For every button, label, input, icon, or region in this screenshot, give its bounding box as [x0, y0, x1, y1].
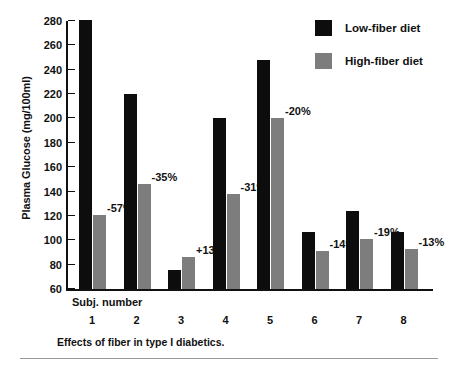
- bar-high-fiber: [271, 118, 284, 289]
- bar-low-fiber: [79, 20, 92, 289]
- y-axis-tick-label: 100: [22, 235, 62, 246]
- bar-low-fiber: [257, 60, 270, 289]
- y-axis-tick: [68, 288, 75, 289]
- bar-high-fiber: [405, 249, 418, 289]
- y-axis-tick-label: 220: [22, 89, 62, 100]
- y-axis-tick: [68, 44, 75, 45]
- bar-percent-label: -35%: [152, 172, 178, 183]
- x-axis-tick-label: 5: [255, 314, 285, 326]
- bar-low-fiber: [302, 232, 315, 289]
- y-axis-tick: [68, 69, 75, 70]
- y-axis-tick: [68, 264, 75, 265]
- horizontal-rule: [20, 358, 438, 359]
- x-axis-tick-label: 8: [389, 314, 419, 326]
- legend-swatch-icon-low-fiber: [315, 20, 332, 36]
- figure-caption: Effects of fiber in type I diabetics.: [57, 336, 224, 348]
- x-axis-line: [66, 289, 433, 291]
- y-axis-tick: [68, 20, 75, 21]
- bar-low-fiber: [168, 270, 181, 289]
- legend-label-low-fiber: Low-fiber diet: [345, 22, 420, 34]
- bar-high-fiber: [360, 239, 373, 289]
- x-axis-tick-label: 2: [122, 314, 152, 326]
- legend-item-high-fiber: High-fiber diet: [315, 53, 423, 69]
- y-axis-tick-label: 120: [22, 211, 62, 222]
- legend-item-low-fiber: Low-fiber diet: [315, 20, 423, 36]
- bar-high-fiber: [93, 215, 106, 289]
- x-axis-tick-label: 6: [300, 314, 330, 326]
- x-axis-tick-label: 4: [211, 314, 241, 326]
- figure: Plasma Glucose (mg/100ml) -57%-35%+13%-3…: [0, 0, 457, 370]
- y-axis-tick-label: 160: [22, 162, 62, 173]
- x-axis-title: Subj. number: [72, 296, 142, 308]
- bar-high-fiber: [227, 194, 240, 289]
- y-axis-tick: [68, 93, 75, 94]
- bar-low-fiber: [124, 94, 137, 289]
- y-axis-tick: [68, 117, 75, 118]
- y-axis-tick-label: 60: [22, 284, 62, 295]
- y-axis-tick-label: 260: [22, 40, 62, 51]
- x-axis-tick-label: 3: [166, 314, 196, 326]
- y-axis-tick: [68, 215, 75, 216]
- legend: Low-fiber diet High-fiber diet: [315, 20, 423, 86]
- x-axis-tick-label: 7: [344, 314, 374, 326]
- y-axis-tick: [68, 142, 75, 143]
- bar-low-fiber: [346, 211, 359, 289]
- x-axis-tick-label: 1: [77, 314, 107, 326]
- y-axis-tick-label: 200: [22, 113, 62, 124]
- bar-low-fiber: [213, 118, 226, 289]
- bar-high-fiber: [138, 184, 151, 289]
- bar-high-fiber: [316, 251, 329, 289]
- legend-swatch-icon-high-fiber: [315, 53, 332, 69]
- legend-label-high-fiber: High-fiber diet: [345, 55, 423, 67]
- y-axis-tick-label: 280: [22, 16, 62, 27]
- y-axis-line: [66, 21, 68, 291]
- y-axis-tick: [68, 191, 75, 192]
- y-axis-tick-label: 180: [22, 138, 62, 149]
- y-axis-tick-label: 140: [22, 187, 62, 198]
- y-axis-tick-label: 240: [22, 65, 62, 76]
- bar-low-fiber: [391, 232, 404, 289]
- y-axis-tick: [68, 239, 75, 240]
- bar-percent-label: -20%: [285, 106, 311, 117]
- y-axis-tick-label: 80: [22, 260, 62, 271]
- bar-percent-label: -13%: [419, 237, 445, 248]
- bar-high-fiber: [182, 257, 195, 289]
- y-axis-tick: [68, 166, 75, 167]
